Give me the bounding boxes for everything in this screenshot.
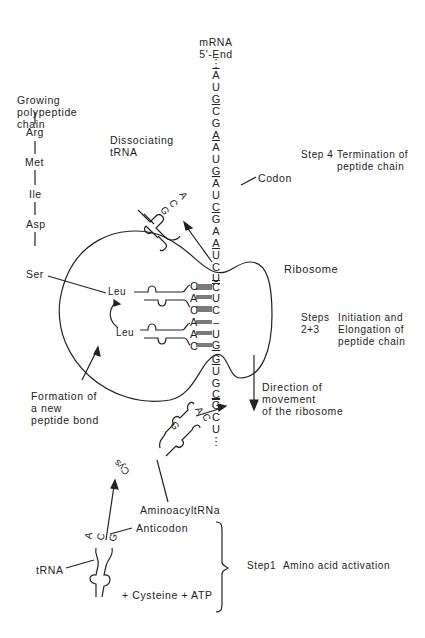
mrna-bottom-dots: ⋮: [210, 436, 222, 447]
residue-arg: Arg: [26, 126, 44, 138]
mrna-top-dots: ⋮: [210, 58, 222, 69]
nucleotide: G: [210, 94, 222, 105]
nucleotide: C: [210, 202, 222, 213]
mrna-title: mRNA: [196, 36, 236, 48]
residue-ile: Ile: [29, 188, 42, 200]
nucleotide: G: [210, 214, 222, 225]
peptide-bond-label: Formation of a new peptide bond: [31, 390, 99, 426]
residue-asp: Asp: [26, 218, 46, 230]
codon-label: Codon: [258, 172, 292, 184]
ribosome-label: Ribosome: [284, 263, 338, 275]
reactants-label: + Cysteine + ATP: [122, 589, 213, 601]
nucleotide: G: [210, 400, 222, 411]
nucleotide: U: [210, 190, 222, 201]
steps23-description: Initiation and Elongation of peptide cha…: [338, 312, 405, 348]
nucleotide: A: [210, 178, 222, 189]
nucleotide: A: [210, 226, 222, 237]
residue-met: Met: [25, 156, 44, 168]
ribosome-outline: [59, 231, 272, 401]
nucleotide: C: [210, 305, 222, 316]
step4-number: Step 4: [301, 149, 334, 161]
step1-brace: [216, 522, 228, 612]
dissociating-trna-label: Dissociating tRNA: [110, 134, 174, 158]
nucleotide: U: [210, 424, 222, 435]
a-site-anticodon-1: A: [190, 316, 197, 328]
nucleotide: U: [210, 154, 222, 165]
residue-ser: Ser: [26, 268, 44, 280]
step4-description: Termination of peptide chain: [337, 149, 408, 173]
nucleotide: U: [210, 293, 222, 304]
nucleotide: G: [210, 118, 222, 129]
nucleotide: A: [210, 130, 222, 141]
free-anticodon-g: G: [107, 533, 119, 543]
a-site-amino-acid: Leu: [116, 327, 134, 338]
step1-description: Amino acid activation: [283, 560, 390, 572]
a-site-trna-shape: [140, 321, 212, 346]
nucleotide: G: [210, 354, 222, 365]
nucleotide: G: [210, 340, 222, 351]
a-site-anticodon-2: A: [190, 328, 197, 340]
dissociating-trna-shape: [138, 210, 180, 251]
polypeptide-title: Growing polypeptide chain: [17, 94, 77, 130]
p-site-anticodon-2: A: [190, 292, 197, 304]
nucleotide: U: [210, 82, 222, 93]
nucleotide: U: [210, 366, 222, 377]
nucleotide: C: [210, 106, 222, 117]
nucleotide: –: [210, 317, 222, 328]
steps23-number: Steps 2+3: [301, 312, 330, 336]
nucleotide: A: [210, 70, 222, 81]
p-site-trna-shape: [134, 285, 212, 311]
nucleotide: G: [210, 166, 222, 177]
aminoacyl-trna-label: AminoacyltRNa: [140, 504, 220, 516]
p-site-anticodon-3: C: [190, 304, 198, 316]
direction-label: Direction of movement of the ribosome: [262, 381, 343, 417]
nucleotide: A: [210, 142, 222, 153]
p-site-amino-acid: Leu: [108, 286, 126, 297]
free-trna-label: tRNA: [36, 564, 64, 576]
anticodon-label: Anticodon: [136, 522, 188, 534]
p-site-anticodon-1: C: [190, 280, 198, 292]
step1-number: Step1: [247, 560, 276, 572]
nucleotide: A: [210, 238, 222, 249]
a-site-anticodon-3: C: [190, 340, 198, 352]
free-trna-shape: [90, 548, 112, 597]
nucleotide: U: [210, 250, 222, 261]
